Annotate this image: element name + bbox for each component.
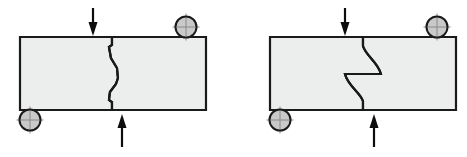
- load-arrow-bottom: [118, 114, 127, 147]
- load-arrow-top: [89, 8, 98, 36]
- load-arrow-top: [341, 8, 350, 36]
- specimen-left-half: [20, 37, 118, 110]
- figure-root: [0, 0, 467, 157]
- arrow-head-down: [89, 22, 98, 36]
- arrow-head-down: [341, 22, 350, 36]
- panel-right: [267, 8, 457, 147]
- crack-comparison-diagram: [0, 0, 467, 157]
- load-arrow-bottom: [370, 114, 379, 147]
- arrow-head-up: [370, 114, 379, 128]
- specimen-right-half: [109, 37, 206, 110]
- panel-left: [17, 8, 207, 147]
- arrow-head-up: [118, 114, 127, 128]
